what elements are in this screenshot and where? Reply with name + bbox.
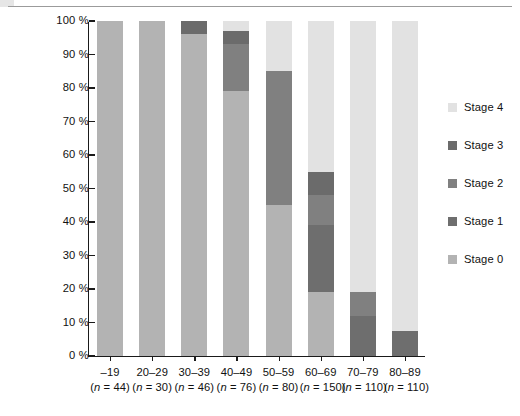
x-axis-label-group: 20–29(n = 30) <box>131 365 173 395</box>
y-axis-tick-label: 90 % <box>63 48 89 59</box>
stacked-bar-chart-figure: 100 %90 %80 %70 %60 %50 %40 %30 %20 %10 … <box>0 0 520 416</box>
x-axis-label-group: 30–39(n = 46) <box>173 365 215 395</box>
bar-segment-stage-0[interactable] <box>308 292 334 356</box>
x-axis-label-group: 50–59(n = 80) <box>258 365 300 395</box>
y-axis-tick-label: 80 % <box>63 82 89 93</box>
legend-item-stage-2[interactable]: Stage 2 <box>448 164 518 202</box>
x-axis-label-group: 40–49(n = 76) <box>215 365 257 395</box>
y-axis-tick-label: 60 % <box>63 149 89 160</box>
bar-slot <box>300 22 342 356</box>
bar-segment-stage-4[interactable] <box>223 21 249 31</box>
x-axis-tick-mark <box>152 356 153 361</box>
bar-segment-stage-3[interactable] <box>181 21 207 34</box>
bar-segment-stage-4[interactable] <box>392 21 418 331</box>
bar-segment-stage-0[interactable] <box>223 91 249 356</box>
x-axis-tick-mark <box>194 356 195 361</box>
legend-item-label: Stage 1 <box>464 215 503 227</box>
stacked-bar[interactable] <box>139 22 165 356</box>
x-axis-tick-mark <box>405 356 406 361</box>
bar-slot <box>131 22 173 356</box>
x-axis-sample-size-label: (n = 30) <box>131 380 173 395</box>
legend-color-swatch <box>448 103 457 112</box>
y-axis-tick-label: 50 % <box>63 182 89 193</box>
x-axis-category-label: 20–29 <box>131 365 173 380</box>
stacked-bar[interactable] <box>266 22 292 356</box>
bar-group <box>89 22 425 356</box>
x-axis-category-label: 60–69 <box>300 365 342 380</box>
y-axis-tick-label: 30 % <box>63 249 89 260</box>
x-axis-label-group: 60–69(n = 150) <box>300 365 342 395</box>
x-axis-tick-mark <box>279 356 280 361</box>
x-axis-category-label: 80–89 <box>384 365 426 380</box>
legend-item-label: Stage 4 <box>464 101 503 113</box>
x-axis-label-group: –19(n = 44) <box>89 365 131 395</box>
bar-segment-stage-2[interactable] <box>350 292 376 315</box>
y-axis-tick-label: 10 % <box>63 316 89 327</box>
y-axis-tick-label: 0 % <box>69 350 89 361</box>
x-axis-category-label: 70–79 <box>342 365 384 380</box>
y-axis-tick-label: 40 % <box>63 216 89 227</box>
bar-segment-stage-3[interactable] <box>223 31 249 44</box>
x-axis-category-label: –19 <box>89 365 131 380</box>
x-axis-tick-mark <box>321 356 322 361</box>
plot-area: 100 %90 %80 %70 %60 %50 %40 %30 %20 %10 … <box>88 22 425 357</box>
stacked-bar[interactable] <box>392 22 418 356</box>
bar-segment-stage-1[interactable] <box>350 316 376 356</box>
y-axis-tick-label: 100 % <box>56 15 89 26</box>
y-axis-tick-label: 70 % <box>63 115 89 126</box>
bar-slot <box>173 22 215 356</box>
bar-segment-stage-0[interactable] <box>266 205 292 356</box>
bar-segment-stage-4[interactable] <box>350 21 376 292</box>
bar-segment-stage-4[interactable] <box>266 21 292 71</box>
bar-segment-stage-1[interactable] <box>308 225 334 292</box>
bar-segment-stage-2[interactable] <box>223 44 249 91</box>
x-axis-tick-mark <box>363 356 364 361</box>
x-axis-category-label: 50–59 <box>258 365 300 380</box>
legend-item-label: Stage 3 <box>464 139 503 151</box>
stacked-bar[interactable] <box>350 22 376 356</box>
bar-segment-stage-1[interactable] <box>392 331 418 356</box>
legend-color-swatch <box>448 179 457 188</box>
x-axis-sample-size-label: (n = 46) <box>173 380 215 395</box>
bar-slot <box>258 22 300 356</box>
bar-segment-stage-2[interactable] <box>308 195 334 225</box>
x-axis-category-label: 40–49 <box>215 365 257 380</box>
legend-item-stage-1[interactable]: Stage 1 <box>448 202 518 240</box>
legend-color-swatch <box>448 141 457 150</box>
stacked-bar[interactable] <box>308 22 334 356</box>
x-axis-sample-size-label: (n = 80) <box>258 380 300 395</box>
legend-color-swatch <box>448 255 457 264</box>
legend-item-label: Stage 0 <box>464 253 503 265</box>
x-axis-label-group: 80–89(n = 110) <box>384 365 426 395</box>
bar-segment-stage-0[interactable] <box>139 21 165 356</box>
bar-slot <box>384 22 426 356</box>
x-axis-sample-size-label: (n = 76) <box>215 380 257 395</box>
legend-item-stage-4[interactable]: Stage 4 <box>448 88 518 126</box>
bar-segment-stage-3[interactable] <box>308 172 334 195</box>
legend-item-stage-3[interactable]: Stage 3 <box>448 126 518 164</box>
bar-segment-stage-4[interactable] <box>308 21 334 172</box>
x-axis-sample-size-label: (n = 110) <box>384 380 426 395</box>
bar-segment-stage-0[interactable] <box>181 34 207 356</box>
x-axis-sample-size-label: (n = 44) <box>89 380 131 395</box>
stacked-bar[interactable] <box>223 22 249 356</box>
bar-segment-stage-2[interactable] <box>266 71 292 205</box>
x-axis-tick-mark <box>110 356 111 361</box>
x-axis-sample-size-label: (n = 150) <box>300 380 342 395</box>
legend-item-stage-0[interactable]: Stage 0 <box>448 240 518 278</box>
bar-segment-stage-0[interactable] <box>97 21 123 356</box>
legend-item-label: Stage 2 <box>464 177 503 189</box>
x-axis-category-label: 30–39 <box>173 365 215 380</box>
y-axis-tick-label: 20 % <box>63 283 89 294</box>
bar-slot <box>89 22 131 356</box>
legend-color-swatch <box>448 217 457 226</box>
x-axis-sample-size-label: (n = 110) <box>342 380 384 395</box>
stacked-bar[interactable] <box>97 22 123 356</box>
bar-slot <box>215 22 257 356</box>
x-axis-tick-mark <box>236 356 237 361</box>
chart-legend: Stage 4Stage 3Stage 2Stage 1Stage 0 <box>448 88 518 278</box>
x-axis-label-group: 70–79(n = 110) <box>342 365 384 395</box>
stacked-bar[interactable] <box>181 22 207 356</box>
bar-slot <box>342 22 384 356</box>
